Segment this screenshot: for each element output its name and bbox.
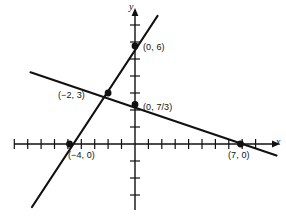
y-axis-label: y [129,1,133,12]
label-point-0-6: (0, 6) [143,42,165,52]
label-point-7-0: (7, 0) [228,150,250,160]
point-0-7-3 [132,101,139,108]
x-axis-label: x [276,136,280,147]
point-7-0 [237,141,244,148]
label-point-neg2-3: (−2, 3) [58,90,85,100]
point-neg2-3 [105,90,112,97]
label-point-0-7-3: (0, 7/3) [143,102,172,112]
label-point-neg4-0: (−4, 0) [68,150,95,160]
point-neg4-0 [66,141,73,148]
coordinate-graph-figure: (0, 6) (0, 7/3) (−2, 3) (−4, 0) (7, 0) x… [0,0,286,217]
point-0-6 [132,43,139,50]
